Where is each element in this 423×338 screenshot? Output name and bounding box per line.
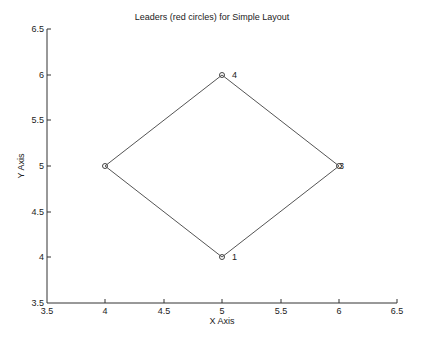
svg-text:6: 6 bbox=[39, 70, 44, 80]
svg-text:1: 1 bbox=[232, 252, 237, 262]
svg-text:3.5: 3.5 bbox=[41, 306, 54, 316]
y-ticks: 6.5 6 5.5 5 4.5 4 3.5 bbox=[31, 24, 51, 308]
svg-text:3: 3 bbox=[339, 161, 344, 171]
svg-text:5.5: 5.5 bbox=[31, 115, 44, 125]
chart-title: Leaders (red circles) for Simple Layout bbox=[135, 12, 290, 22]
y-axis-label: Y Axis bbox=[16, 153, 26, 178]
svg-text:4: 4 bbox=[232, 70, 237, 80]
x-ticks: 3.5 4 4.5 5 5.5 6 6.5 bbox=[41, 299, 404, 316]
graph-edges bbox=[105, 75, 339, 257]
svg-text:4.5: 4.5 bbox=[31, 207, 44, 217]
svg-text:4: 4 bbox=[39, 252, 44, 262]
svg-text:4: 4 bbox=[102, 306, 107, 316]
node-labels: 1 3 4 bbox=[232, 70, 344, 262]
svg-text:6.5: 6.5 bbox=[391, 306, 404, 316]
x-axis-label: X Axis bbox=[209, 316, 235, 326]
svg-text:5: 5 bbox=[219, 306, 224, 316]
svg-text:4.5: 4.5 bbox=[158, 306, 171, 316]
svg-text:5: 5 bbox=[39, 161, 44, 171]
svg-text:6: 6 bbox=[336, 306, 341, 316]
svg-text:6.5: 6.5 bbox=[31, 24, 44, 34]
chart: Leaders (red circles) for Simple Layout … bbox=[0, 0, 423, 338]
graph-nodes bbox=[103, 73, 342, 260]
svg-text:5.5: 5.5 bbox=[275, 306, 288, 316]
